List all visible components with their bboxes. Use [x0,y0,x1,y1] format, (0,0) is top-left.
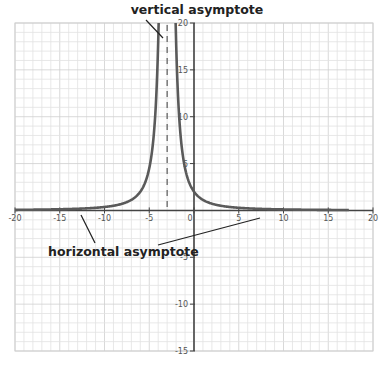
horizontal-asymptote-pointer-right [158,218,260,245]
x-tick-label: 20 [368,214,378,223]
y-tick-label: -10 [175,300,188,309]
x-tick-label: 10 [278,214,288,223]
x-tick-label: 15 [323,214,333,223]
x-tick-label: -10 [98,214,111,223]
x-tick-label: -15 [53,214,66,223]
asymptote-chart: -20-15-10-505101520-15-10-55101520 verti… [0,0,383,366]
y-tick-label: 20 [178,19,188,28]
y-tick-label: -15 [175,347,188,356]
horizontal-asymptote-label: horizontal asymptote [48,244,199,259]
x-tick-label: -5 [145,214,153,223]
vertical-asymptote-label: vertical asymptote [131,2,264,17]
y-tick-label: 15 [178,66,188,75]
x-tick-label: 5 [236,214,241,223]
x-tick-label: -20 [8,214,21,223]
x-tick-label: 0 [187,214,192,223]
